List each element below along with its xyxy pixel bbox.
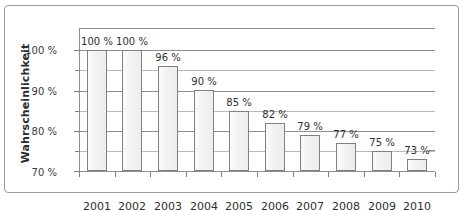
bar-2005[interactable]: [229, 111, 249, 171]
x-category-label-2002: 2002: [118, 200, 146, 203]
x-category-label-2007: 2007: [296, 200, 324, 203]
x-category-label-2006: 2006: [261, 200, 289, 203]
y-axis-line: [79, 28, 80, 172]
bar-value-label-2008: 77 %: [333, 129, 358, 140]
bar-2008[interactable]: [336, 143, 356, 171]
bar-2003[interactable]: [158, 66, 178, 171]
x-tick-3: [186, 172, 187, 177]
x-tick-9: [399, 172, 400, 177]
x-tick-2: [150, 172, 151, 177]
y-axis-title-label: Wahrscheinlichkeit: [20, 43, 33, 163]
x-tick-10: [435, 172, 436, 177]
y-tick-label-70: 70 %: [0, 167, 57, 178]
x-category-label-2004: 2004: [190, 200, 218, 203]
x-category-label-2001: 2001: [83, 200, 111, 203]
bar-2006[interactable]: [265, 123, 285, 171]
bar-2002[interactable]: [122, 50, 142, 171]
x-category-label-2009: 2009: [368, 200, 396, 203]
x-tick-1: [115, 172, 116, 177]
x-tick-0: [79, 172, 80, 177]
x-tick-6: [293, 172, 294, 177]
x-tick-4: [221, 172, 222, 177]
bar-2007[interactable]: [300, 135, 320, 171]
bar-value-label-2010: 73 %: [404, 145, 429, 156]
x-category-label-2008: 2008: [332, 200, 360, 203]
chart-frame: Wahrscheinlichkeit 100 % 90 % 80 % 70 %: [4, 5, 459, 193]
bar-2004[interactable]: [194, 90, 214, 171]
x-category-label-2003: 2003: [154, 200, 182, 203]
plot-area: 100 % 100 % 96 % 90 % 85 % 82 % 79 % 77 …: [79, 28, 435, 172]
bar-value-label-2005: 85 %: [226, 97, 251, 108]
bar-value-label-2003: 96 %: [155, 52, 180, 63]
bar-2010[interactable]: [407, 159, 427, 171]
last-value-label-tick: [429, 150, 435, 151]
bar-value-label-2007: 79 %: [297, 121, 322, 132]
bar-2009[interactable]: [372, 151, 392, 171]
bar-value-label-2009: 75 %: [369, 137, 394, 148]
plot-top-border: [79, 28, 435, 29]
x-tick-5: [257, 172, 258, 177]
bar-value-label-2001: 100 %: [81, 36, 113, 47]
bar-value-label-2006: 82 %: [262, 109, 287, 120]
x-tick-7: [328, 172, 329, 177]
y-tick-label-90: 90 %: [0, 86, 57, 97]
x-tick-8: [364, 172, 365, 177]
bar-2001[interactable]: [87, 50, 107, 171]
y-tick-label-80: 80 %: [0, 126, 57, 137]
bar-value-label-2004: 90 %: [191, 76, 216, 87]
y-tick-label-100: 100 %: [0, 45, 57, 56]
x-category-label-2010: 2010: [403, 200, 431, 203]
bar-value-label-2002: 100 %: [116, 36, 148, 47]
x-category-label-2005: 2005: [225, 200, 253, 203]
